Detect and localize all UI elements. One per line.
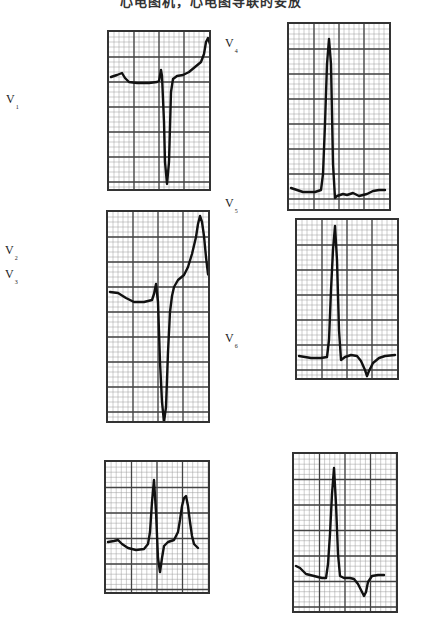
ecg-grid-trace xyxy=(109,32,209,189)
lead-letter: V xyxy=(225,331,234,345)
lead-label-v4: V4 xyxy=(225,37,237,54)
ecg-grid-trace xyxy=(108,212,208,421)
ecg-panel-v2 xyxy=(106,210,210,423)
lead-number: 4 xyxy=(235,48,238,54)
lead-label-v1: V1 xyxy=(6,93,18,110)
lead-label-v5: V5 xyxy=(225,197,237,214)
lead-label-v2: V2 xyxy=(5,244,17,261)
ecg-panel-v1 xyxy=(107,30,211,191)
lead-letter: V xyxy=(225,36,234,50)
ecg-grid-trace xyxy=(297,220,397,378)
ecg-panel-v3 xyxy=(104,460,210,594)
lead-letter: V xyxy=(6,92,15,106)
lead-label-v3: V3 xyxy=(5,268,17,285)
lead-letter: V xyxy=(225,196,234,210)
lead-number: 5 xyxy=(235,208,238,214)
lead-number: 2 xyxy=(15,255,18,261)
ecg-grid-trace xyxy=(106,462,208,592)
lead-number: 3 xyxy=(15,279,18,285)
lead-label-v6: V6 xyxy=(225,332,237,349)
lead-letter: V xyxy=(5,243,14,257)
figure-title: 心电图机，心电图导联的安放 xyxy=(0,0,422,10)
ecg-panel-v6 xyxy=(292,452,398,613)
lead-letter: V xyxy=(5,267,14,281)
ecg-grid-trace xyxy=(294,454,396,611)
ecg-grid-trace xyxy=(289,24,389,209)
ecg-panel-v5 xyxy=(295,218,399,380)
ecg-panel-v4 xyxy=(287,22,391,211)
lead-number: 6 xyxy=(235,343,238,349)
lead-number: 1 xyxy=(16,104,19,110)
